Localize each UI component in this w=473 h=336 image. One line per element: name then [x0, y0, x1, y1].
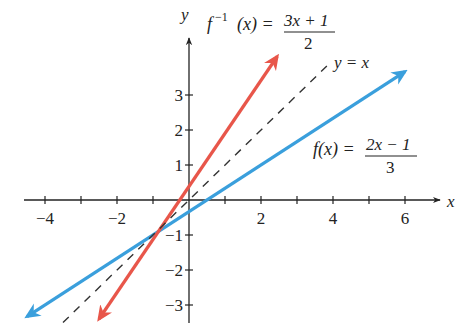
- finv-f: f: [207, 14, 215, 34]
- finv-sup: −1: [215, 10, 228, 24]
- y-tick-label: −2: [165, 261, 183, 280]
- y-tick-label: 2: [175, 121, 184, 140]
- x-tick-label: −4: [36, 209, 55, 228]
- axes: −4−2246−3−2−1123: [24, 38, 440, 323]
- series-line-1: [99, 57, 277, 320]
- f-annotation: f(x) = 2x − 1 3: [313, 135, 417, 177]
- series-line-2: [63, 64, 329, 323]
- x-tick-label: 2: [257, 209, 266, 228]
- x-axis-label: x: [446, 192, 455, 211]
- y-tick-label: 3: [175, 86, 184, 105]
- x-tick-label: −2: [108, 209, 126, 228]
- finv-numerator: 3x + 1: [283, 11, 329, 30]
- x-tick-label: 6: [401, 209, 410, 228]
- f-lhs: f(x) =: [313, 139, 355, 160]
- y-tick-label: −1: [165, 226, 183, 245]
- y-axis-label: y: [179, 5, 189, 24]
- finv-annotation: f −1 (x) = 3x + 1 2: [207, 10, 335, 53]
- y-tick-label: 1: [175, 156, 184, 175]
- x-tick-label: 4: [329, 209, 338, 228]
- identity-line-label: y = x: [332, 53, 370, 72]
- inverse-functions-chart: −4−2246−3−2−1123 y x f −1 (x) = 3x + 1 2…: [0, 0, 473, 336]
- finv-arg: (x) =: [237, 14, 274, 35]
- f-denominator: 3: [386, 158, 395, 177]
- f-numerator: 2x − 1: [366, 135, 411, 154]
- series-line-0: [27, 72, 405, 317]
- series-lines: [27, 57, 405, 323]
- finv-denominator: 2: [304, 34, 313, 53]
- y-tick-label: −3: [165, 296, 183, 315]
